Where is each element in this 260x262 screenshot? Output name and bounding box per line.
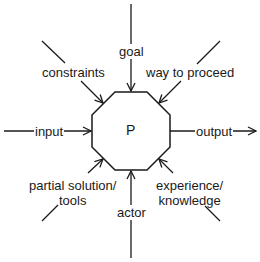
experience-line xyxy=(205,206,220,221)
way-to-proceed-label: way to proceed xyxy=(145,65,235,80)
input-label: input xyxy=(34,124,64,139)
partial-solution-arrow xyxy=(88,159,103,173)
output-label: output xyxy=(195,124,233,139)
partial-solution-label: partial solution/ tools xyxy=(28,178,117,208)
way-to-proceed-arrow xyxy=(159,81,181,103)
experience-arrow xyxy=(159,159,173,173)
process-label: P xyxy=(126,122,135,138)
constraints-arrow xyxy=(81,81,103,103)
constraints-line xyxy=(42,41,65,63)
actor-label: actor xyxy=(116,205,147,220)
goal-label: goal xyxy=(118,44,145,59)
way-to-proceed-line xyxy=(197,41,220,64)
experience-label: experience/ knowledge xyxy=(155,178,224,208)
constraints-label: constraints xyxy=(41,65,106,80)
process-diagram: P goal constraints way to proceed input … xyxy=(0,0,260,262)
